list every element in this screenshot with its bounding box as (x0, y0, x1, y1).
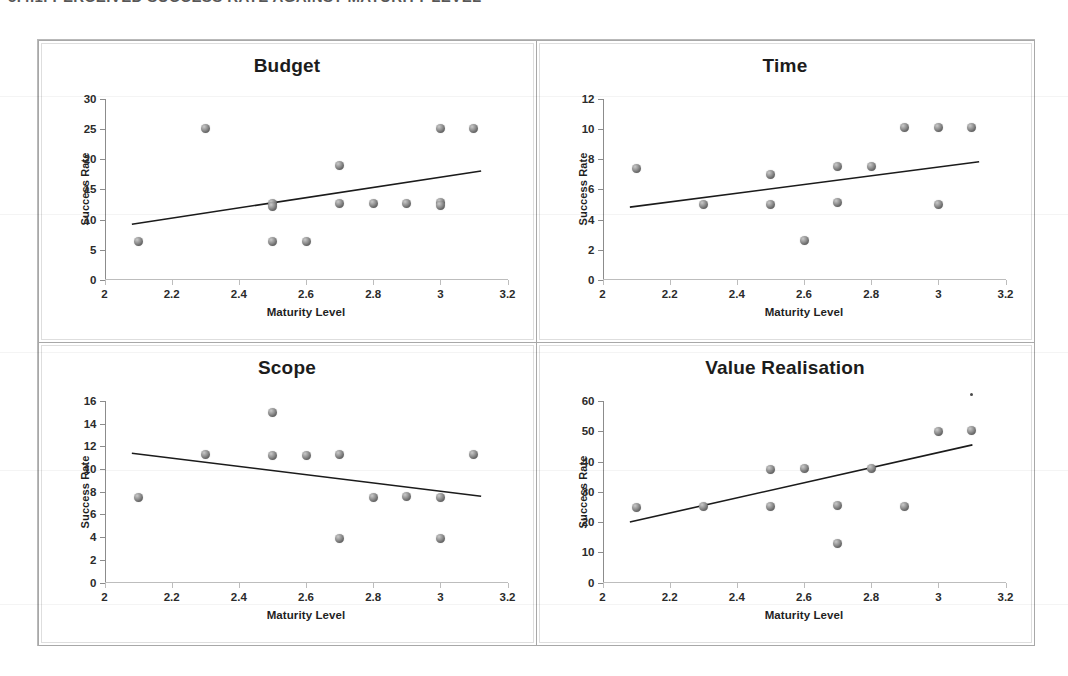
x-axis-tick (508, 583, 509, 588)
data-point-marker (134, 237, 143, 246)
y-axis-tick-label: 20 (582, 516, 595, 528)
y-axis-tick-label: 2 (588, 244, 594, 256)
data-point-marker (766, 465, 775, 474)
data-point-marker (268, 202, 277, 211)
data-point-marker (867, 464, 876, 473)
x-axis-tick (737, 280, 738, 285)
x-axis-tick-label: 2.4 (231, 288, 247, 300)
data-point-marker (302, 237, 311, 246)
data-point-marker (335, 199, 344, 208)
x-axis-tick (306, 280, 307, 285)
data-point-marker (766, 170, 775, 179)
plot-area-time: Success Rate Maturity Level 02468101222.… (603, 99, 1006, 281)
x-axis-tick-label: 3.2 (998, 288, 1014, 300)
data-point-marker (436, 493, 445, 502)
y-axis-tick-label: 14 (84, 418, 97, 430)
panel-value-realisation: Value Realisation Success Rate Maturity … (536, 342, 1035, 646)
plot-area-value-realisation: Success Rate Maturity Level 010203040506… (603, 401, 1006, 583)
data-point-marker (335, 450, 344, 459)
data-point-marker (632, 503, 641, 512)
y-axis-tick-label: 40 (582, 456, 595, 468)
x-axis-tick (938, 583, 939, 588)
x-axis-tick (603, 280, 604, 285)
x-axis-tick (440, 583, 441, 588)
x-axis-title: Maturity Level (603, 609, 1006, 621)
x-axis-tick-label: 2.2 (164, 288, 180, 300)
y-axis-tick-label: 0 (588, 577, 594, 589)
x-axis-tick-label: 2 (101, 591, 107, 603)
x-axis-tick (938, 280, 939, 285)
panel-scope: Scope Success Rate Maturity Level 024681… (38, 342, 537, 646)
x-axis-title: Maturity Level (105, 306, 508, 318)
x-axis-tick-label: 2.4 (231, 591, 247, 603)
x-axis-tick-label: 3 (935, 591, 941, 603)
data-point-marker (436, 124, 445, 133)
x-axis-tick (105, 583, 106, 588)
y-axis-tick-label: 60 (582, 395, 595, 407)
trendline (105, 401, 508, 583)
page-caption-sliver: 5.4.1. PERCEIVED SUCCESS RATE AGAINST MA… (0, 0, 1068, 10)
x-axis-tick-label: 2.8 (365, 288, 381, 300)
y-axis-tick-label: 6 (588, 183, 594, 195)
y-axis-tick-label: 5 (90, 244, 96, 256)
data-point-marker (800, 464, 809, 473)
data-point-marker (201, 450, 210, 459)
y-axis-tick-label: 20 (84, 153, 97, 165)
x-axis-title: Maturity Level (603, 306, 1006, 318)
scatter-panel-grid: Budget Success Rate Maturity Level 05101… (38, 40, 1034, 645)
x-axis-tick-label: 2.2 (662, 288, 678, 300)
y-axis-tick-label: 10 (84, 214, 97, 226)
data-point-marker (436, 534, 445, 543)
x-axis-tick (373, 583, 374, 588)
x-axis-tick-label: 3 (935, 288, 941, 300)
data-point-marker (369, 493, 378, 502)
data-point-marker (699, 200, 708, 209)
y-axis-tick-label: 0 (588, 274, 594, 286)
x-axis-tick-label: 2.2 (164, 591, 180, 603)
y-axis-tick-label: 4 (588, 214, 594, 226)
data-point-marker (934, 200, 943, 209)
y-axis-tick-label: 25 (84, 123, 97, 135)
y-axis-tick-label: 50 (582, 425, 595, 437)
y-axis-tick-label: 0 (90, 274, 96, 286)
x-axis-tick (603, 583, 604, 588)
x-axis-tick-label: 2.4 (729, 591, 745, 603)
x-axis-tick-label: 3 (437, 288, 443, 300)
data-point-marker (335, 161, 344, 170)
panel-budget: Budget Success Rate Maturity Level 05101… (38, 40, 537, 344)
data-point-marker (369, 199, 378, 208)
y-axis-tick-label: 12 (84, 440, 97, 452)
panel-title: Budget (39, 55, 536, 77)
trendline (603, 99, 1006, 281)
data-point-marker (766, 200, 775, 209)
panel-title: Time (537, 55, 1034, 77)
x-axis-tick-label: 2.6 (298, 288, 314, 300)
scan-artifact-speck (970, 393, 973, 396)
y-axis-tick-label: 8 (90, 486, 96, 498)
trendline (603, 401, 1006, 583)
x-axis-tick (239, 583, 240, 588)
x-axis-tick-label: 2.6 (298, 591, 314, 603)
x-axis-tick (239, 280, 240, 285)
y-axis-tick-label: 15 (84, 183, 97, 195)
y-axis-tick-label: 0 (90, 577, 96, 589)
data-point-marker (934, 123, 943, 132)
x-axis-tick (871, 280, 872, 285)
plot-area-scope: Success Rate Maturity Level 024681012141… (105, 401, 508, 583)
data-point-marker (632, 164, 641, 173)
panel-time: Time Success Rate Maturity Level 0246810… (536, 40, 1035, 344)
plot-area-budget: Success Rate Maturity Level 051015202530… (105, 99, 508, 281)
x-axis-tick-label: 3.2 (500, 288, 516, 300)
x-axis-tick (871, 583, 872, 588)
data-point-marker (800, 236, 809, 245)
y-axis-tick-label: 8 (588, 153, 594, 165)
x-axis-tick-label: 2.8 (863, 591, 879, 603)
page-caption-text: 5.4.1. PERCEIVED SUCCESS RATE AGAINST MA… (8, 0, 482, 5)
y-axis-tick-label: 16 (84, 395, 97, 407)
x-axis-tick-label: 3.2 (998, 591, 1014, 603)
data-point-marker (335, 534, 344, 543)
x-axis-tick (172, 583, 173, 588)
y-axis-tick-label: 10 (582, 546, 595, 558)
x-axis-tick (804, 583, 805, 588)
data-point-marker (268, 451, 277, 460)
